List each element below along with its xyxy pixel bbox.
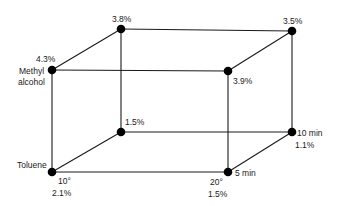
label-temp-high: 20° — [210, 177, 223, 187]
value-back-top-left: 3.8% — [112, 14, 131, 24]
label-temp-low: 10° — [58, 176, 71, 186]
label-time-high: 10 min — [297, 128, 323, 138]
value-front-top-left: 4.3% — [36, 54, 55, 64]
edge-depth-top-right — [228, 31, 292, 71]
cube-diagram: 3.8% 3.5% 4.3% 3.9% 1.5% 1.1% 2.1% 1.5% … — [0, 0, 337, 206]
value-back-bottom-right: 1.1% — [295, 140, 314, 150]
value-front-top-right: 3.9% — [233, 76, 252, 86]
node-front-top-left-icon — [48, 66, 57, 75]
node-front-bottom-right-icon — [224, 168, 233, 177]
value-back-bottom-left: 1.5% — [125, 117, 144, 127]
node-back-bottom-left-icon — [117, 128, 126, 137]
node-back-top-left-icon — [117, 25, 126, 34]
node-back-bottom-right-icon — [288, 128, 297, 137]
value-front-bottom-right: 1.5% — [208, 189, 227, 199]
label-alcohol: alcohol — [18, 77, 45, 87]
cube-edges — [0, 0, 337, 206]
value-front-bottom-left: 2.1% — [52, 188, 71, 198]
value-back-top-right: 3.5% — [283, 16, 302, 26]
label-time-low: 5 min — [235, 168, 256, 178]
edge-front-top — [52, 70, 228, 71]
edge-depth-top-left — [52, 29, 121, 70]
edge-depth-bottom-left — [52, 132, 121, 172]
edge-back-top — [121, 29, 292, 31]
edge-depth-bottom-right — [228, 132, 292, 172]
node-front-top-right-icon — [224, 67, 233, 76]
label-toluene: Toluene — [17, 160, 47, 170]
node-front-bottom-left-icon — [48, 168, 57, 177]
label-methyl: Methyl — [19, 66, 44, 76]
node-back-top-right-icon — [288, 27, 297, 36]
